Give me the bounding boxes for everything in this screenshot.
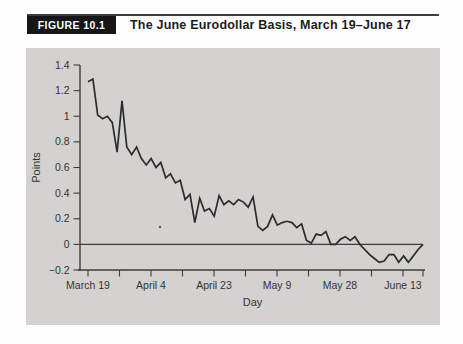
basis-line-chart: −0.200.20.40.60.811.21.4March 19April 4A… xyxy=(26,48,440,325)
points-axis-title: Points xyxy=(30,152,42,183)
day-axis-title: Day xyxy=(243,296,263,308)
y-tick-label: 1.2 xyxy=(55,84,70,96)
x-tick-label: April 4 xyxy=(136,279,166,291)
figure-number-badge: FIGURE 10.1 xyxy=(27,16,116,34)
basis-line xyxy=(88,79,423,262)
x-tick-label: June 13 xyxy=(384,279,422,291)
y-tick-label: 0.2 xyxy=(55,212,70,224)
figure-panel: −0.200.20.40.60.811.21.4March 19April 4A… xyxy=(26,48,440,325)
x-tick-label: April 23 xyxy=(196,279,232,291)
figure-title: The June Eurodollar Basis, March 19–June… xyxy=(130,16,411,34)
y-tick-label: 0 xyxy=(64,238,70,250)
y-tick-label: −0.2 xyxy=(49,264,70,276)
scan-speck xyxy=(159,226,161,228)
y-tick-label: 0.8 xyxy=(55,135,70,147)
y-tick-label: 1 xyxy=(64,110,70,122)
x-tick-label: May 28 xyxy=(323,279,358,291)
y-tick-label: 0.6 xyxy=(55,161,70,173)
y-tick-label: 0.4 xyxy=(55,187,70,199)
figure-number-label: FIGURE 10.1 xyxy=(38,19,105,31)
x-tick-label: March 19 xyxy=(66,279,110,291)
x-tick-label: May 9 xyxy=(263,279,292,291)
y-tick-label: 1.4 xyxy=(55,59,70,71)
